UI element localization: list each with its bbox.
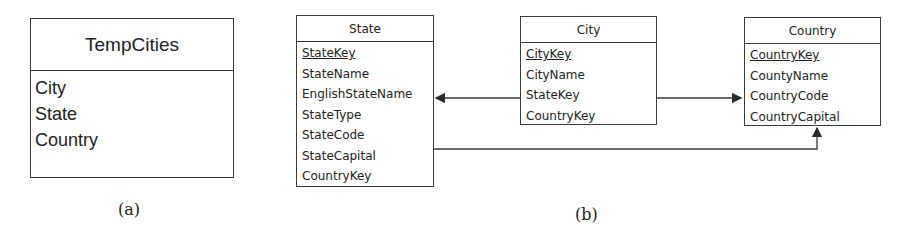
state-title: State: [297, 16, 433, 42]
country-field: CountyName: [750, 66, 880, 87]
state-field: EnglishStateName: [302, 84, 433, 105]
city-field: StateKey: [526, 85, 656, 106]
state-primary-key: StateKey: [302, 43, 433, 64]
country-primary-key: CountryKey: [750, 45, 880, 66]
country-field: CountryCapital: [750, 107, 880, 128]
city-field: CountryKey: [526, 106, 656, 127]
country-table: Country CountryKey CountyName CountryCod…: [744, 17, 881, 126]
state-field: StateCode: [302, 125, 433, 146]
country-fields: CountryKey CountyName CountryCode Countr…: [745, 44, 880, 127]
caption-b: (b): [575, 205, 598, 224]
state-to-country-arrow: [433, 128, 817, 149]
state-field: StateType: [302, 105, 433, 126]
city-title: City: [521, 17, 656, 43]
city-fields: CityKey CityName StateKey CountryKey: [521, 43, 656, 126]
city-table: City CityKey CityName StateKey CountryKe…: [520, 16, 657, 125]
city-primary-key: CityKey: [526, 44, 656, 65]
city-field: CityName: [526, 65, 656, 86]
state-table: State StateKey StateName EnglishStateNam…: [296, 15, 434, 187]
country-field: CountryCode: [750, 86, 880, 107]
state-fields: StateKey StateName EnglishStateName Stat…: [297, 42, 433, 187]
state-field: StateName: [302, 64, 433, 85]
country-title: Country: [745, 18, 880, 44]
state-field: StateCapital: [302, 146, 433, 167]
state-field: CountryKey: [302, 166, 433, 187]
